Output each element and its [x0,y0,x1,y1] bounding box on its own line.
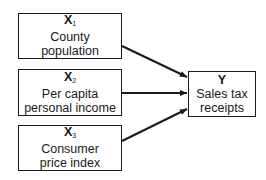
variable-label-line1: Sales tax [196,87,247,101]
variable-symbol: Y [218,74,226,87]
variable-symbol: X3 [64,126,76,142]
variable-symbol: X1 [64,14,76,30]
variable-label-line2: personal income [24,101,116,115]
variable-label-line2: receipts [200,101,244,115]
input-box-x2: X2 Per capita personal income [18,69,122,116]
variable-label-line2: population [41,44,99,58]
variable-label-line1: Per capita [42,87,98,101]
input-box-x3: X3 Consumer price index [18,125,122,171]
output-box-y: Y Sales tax receipts [188,71,256,117]
arrow-x3-to-y [122,109,187,141]
variable-label-line1: Consumer [41,142,99,156]
arrow-x1-to-y [122,46,187,77]
variable-label-line2: price index [40,156,100,170]
variable-symbol: X2 [64,71,76,87]
input-box-x1: X1 County population [18,13,122,59]
variable-label-line1: County [50,30,90,44]
